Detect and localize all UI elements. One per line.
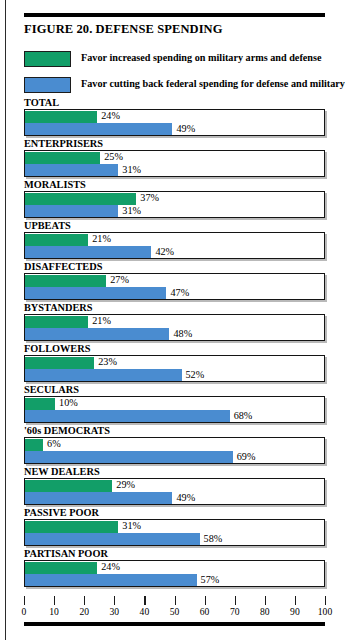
bar-group-label: ENTERPRISERS [24,138,103,149]
bar-group-plot-area: 21%42% [24,232,325,259]
bar-value-label: 27% [110,274,129,285]
bar-group: ENTERPRISERS25%31% [0,139,339,180]
bar-value-label: 42% [155,246,174,257]
axis-tick [54,596,55,605]
bar-group: BYSTANDERS21%48% [0,303,339,344]
bar-favor-cut [25,574,197,586]
bar-value-label: 47% [170,287,189,298]
bar-group: MORALISTS37%31% [0,180,339,221]
axis-tick-label: 80 [260,606,270,617]
bar-value-label: 31% [122,520,141,531]
bar-value-label: 21% [92,315,111,326]
bar-favor-increase [25,398,55,410]
bar-value-label: 21% [92,233,111,244]
bar-value-label: 52% [186,369,205,380]
bar-favor-cut [25,123,172,135]
bar-favor-increase [25,234,88,246]
axis-tick [24,596,25,605]
bar-group-label: MORALISTS [24,179,86,190]
figure-title: FIGURE 20. DEFENSE SPENDING [24,22,223,37]
bar-group-label: PASSIVE POOR [24,507,99,518]
bar-favor-cut [25,533,200,545]
bar-value-label: 58% [204,533,223,544]
bar-value-label: 49% [176,492,195,503]
bar-group: UPBEATS21%42% [0,221,339,262]
bar-favor-cut [25,205,118,217]
bar-group-plot-area: 24%57% [24,560,325,587]
bar-favor-increase [25,357,94,369]
bar-favor-cut [25,246,151,258]
bar-value-label: 48% [173,328,192,339]
bar-group-label: DISAFFECTEDS [24,261,102,272]
axis-tick-label: 50 [170,606,180,617]
bar-favor-cut [25,164,118,176]
bar-group-plot-area: 27%47% [24,273,325,300]
bar-favor-increase [25,439,43,451]
legend-label-blue: Favor cutting back federal spending for … [81,78,345,89]
axis-tick-label: 0 [22,606,27,617]
bottom-divider-rule [24,622,325,626]
axis-tick [235,596,236,605]
bar-group: PASSIVE POOR31%58% [0,508,339,549]
axis-tick-label: 90 [290,606,300,617]
axis-tick [144,596,145,605]
bar-value-label: 24% [101,110,120,121]
bar-group: PARTISAN POOR24%57% [0,549,339,590]
bar-value-label: 24% [101,561,120,572]
bar-group: NEW DEALERS29%49% [0,467,339,508]
axis-tick-label: 10 [49,606,59,617]
bar-value-label: 31% [122,205,141,216]
bar-group-label: UPBEATS [24,220,71,231]
bar-favor-cut [25,410,230,422]
bar-group-label: FOLLOWERS [24,343,90,354]
bar-group-plot-area: 37%31% [24,191,325,218]
bar-value-label: 37% [140,192,159,203]
bar-favor-increase [25,193,136,205]
axis-tick [325,596,326,605]
bar-favor-increase [25,111,97,123]
axis-tick [205,596,206,605]
bar-favor-cut [25,287,166,299]
bar-group-plot-area: 31%58% [24,519,325,546]
bar-value-label: 69% [237,451,256,462]
bar-favor-increase [25,275,106,287]
bar-favor-increase [25,521,118,533]
bar-favor-cut [25,328,169,340]
bar-group-label: TOTAL [24,97,59,108]
bar-group-plot-area: 25%31% [24,150,325,177]
legend-swatch-blue [24,77,71,93]
bar-group-plot-area: 29%49% [24,478,325,505]
bar-group-list: TOTAL24%49%ENTERPRISERS25%31%MORALISTS37… [0,98,339,590]
bar-favor-cut [25,492,172,504]
bar-value-label: 10% [59,397,78,408]
top-divider-rule [24,13,325,17]
bar-group-label: SECULARS [24,384,79,395]
bar-group-label: NEW DEALERS [24,466,100,477]
bar-value-label: 23% [98,356,117,367]
axis-tick-label: 70 [230,606,240,617]
bar-value-label: 6% [47,438,61,449]
bar-favor-increase [25,562,97,574]
bar-group-plot-area: 24%49% [24,109,325,136]
bar-group: SECULARS10%68% [0,385,339,426]
bar-favor-cut [25,451,233,463]
axis-tick [114,596,115,605]
bar-group-plot-area: 21%48% [24,314,325,341]
axis-tick [84,596,85,605]
bar-group-label: BYSTANDERS [24,302,92,313]
bar-group-plot-area: 10%68% [24,396,325,423]
axis-tick-label: 20 [79,606,89,617]
bar-value-label: 31% [122,164,141,175]
bar-value-label: 29% [116,479,135,490]
bar-favor-increase [25,316,88,328]
bar-group: '60s DEMOCRATS6%69% [0,426,339,467]
axis-tick [175,596,176,605]
bar-group-plot-area: 6%69% [24,437,325,464]
bar-favor-increase [25,152,100,164]
bar-group-plot-area: 23%52% [24,355,325,382]
bar-favor-cut [25,369,182,381]
axis-tick-label: 40 [140,606,150,617]
bar-group-label: '60s DEMOCRATS [24,425,110,436]
axis-tick-label: 30 [110,606,120,617]
